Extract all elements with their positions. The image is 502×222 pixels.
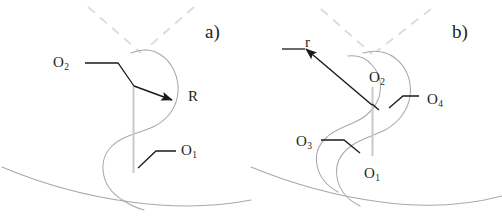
leader-line-o2-a: [85, 63, 134, 86]
label-o2-panel-a: O2: [53, 55, 69, 70]
panel-label-a: a): [205, 22, 220, 41]
label-r-panel-a: R: [188, 89, 198, 104]
label-o2-a-base: O: [53, 54, 64, 70]
s-curve-a: [103, 50, 178, 210]
label-o3-b-subscript: 3: [307, 141, 312, 151]
leader-line-o3-b: [321, 140, 360, 153]
label-o1-panel-b: O1: [364, 166, 380, 181]
dashed-line-left-b: [321, 9, 372, 54]
label-o2-a-subscript: 2: [64, 62, 69, 72]
bottom-arc-a: [2, 167, 251, 206]
label-o1-a-base: O: [181, 142, 192, 158]
label-r-b-base: r: [305, 34, 310, 50]
label-o1-b-base: O: [364, 165, 375, 181]
label-o2-b-base: O: [369, 69, 380, 85]
label-r-panel-b: r: [305, 35, 310, 50]
label-o1-b-subscript: 1: [375, 173, 380, 183]
label-r-a-base: R: [188, 88, 198, 104]
figure-canvas: [0, 0, 502, 222]
figure-container: O2 R O1 a) r O2 O4 O3 O1 b): [0, 0, 502, 222]
leader-line-o4-b: [389, 96, 419, 108]
label-o3-panel-b: O3: [296, 134, 312, 149]
leader-line-o1-a: [138, 151, 176, 168]
label-o3-b-base: O: [296, 133, 307, 149]
dashed-line-left-a: [88, 7, 141, 53]
label-o1-panel-a: O1: [181, 143, 197, 158]
label-o4-b-base: O: [427, 91, 438, 107]
panel-label-b: b): [452, 22, 468, 41]
dashed-line-right-b: [377, 9, 431, 51]
arrow-to-r-a: [134, 86, 172, 100]
label-o4-b-subscript: 4: [438, 99, 443, 109]
label-o2-b-subscript: 2: [380, 77, 385, 87]
label-o1-a-subscript: 1: [192, 150, 197, 160]
label-o4-panel-b: O4: [427, 92, 443, 107]
label-o2-panel-b: O2: [369, 70, 385, 85]
dashed-line-right-a: [145, 7, 194, 50]
